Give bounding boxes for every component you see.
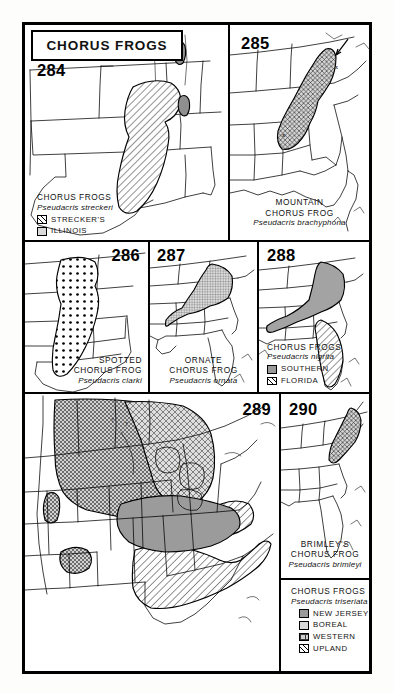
legend-288-label-southern: SOUTHERN (281, 364, 329, 374)
swatch-solid-gray-icon (299, 609, 309, 618)
caption-287-common-name-line1: ORNATE (150, 355, 257, 366)
plate-title-box: CHORUS FROGS (31, 30, 183, 61)
caption-290-common-name-line2: CHORUS FROG (281, 549, 369, 560)
legend-288-label-florida: FLORIDA (281, 376, 318, 386)
swatch-fine-grid-icon (37, 227, 47, 236)
swatch-cross-hatch-icon (299, 621, 309, 630)
legend-284: CHORUS FROGS Pseudacris streckeri STRECK… (37, 192, 113, 236)
caption-285-common-name-line1: MOUNTAIN (230, 197, 369, 208)
panel-number-286: 286 (112, 246, 140, 265)
legend-289-label-western: WESTERN (313, 632, 356, 642)
caption-285: MOUNTAIN CHORUS FROG Pseudacris brachyph… (230, 197, 369, 228)
panel-289: ? ? ? 289 (25, 394, 281, 671)
legend-288-common-name: CHORUS FROGS (267, 342, 341, 353)
map-289: ? ? ? (25, 394, 281, 671)
panel-288: 288 CHORUS FROGS Pseudacris nigrita SOUT… (259, 242, 369, 394)
panel-number-290: 290 (289, 400, 317, 419)
legend-289-label-upland: UPLAND (313, 644, 348, 654)
legend-288: CHORUS FROGS Pseudacris nigrita SOUTHERN… (267, 342, 341, 386)
legend-289-scientific-name: Pseudacris triseriata (291, 597, 369, 607)
panel-285: x x 285 MOUNTAIN CHORUS FROG Pseudacris … (230, 25, 369, 242)
panel-number-287: 287 (157, 246, 185, 265)
legend-284-label-illinois: ILLINOIS (51, 226, 87, 236)
legend-284-scientific-name: Pseudacris streckeri (37, 203, 113, 213)
caption-287: ORNATE CHORUS FROG Pseudacris ornata (150, 355, 257, 386)
legend-284-common-name: CHORUS FROGS (37, 192, 113, 203)
svg-text:?: ? (111, 417, 114, 423)
panel-number-284: 284 (37, 61, 65, 80)
swatch-diagonal-hatch-icon (299, 644, 309, 653)
panel-284: CHORUS FROGS 284 CHORUS FROGS Pseudacris… (25, 25, 230, 242)
legend-289-item-new-jersey: NEW JERSEY (299, 609, 369, 619)
legend-284-item-illinois: ILLINOIS (37, 226, 113, 236)
legend-289-item-western: WESTERN (299, 632, 369, 642)
panel-number-289: 289 (243, 400, 271, 419)
panel-287: 287 ORNATE CHORUS FROG Pseudacris ornata (150, 242, 259, 394)
legend-289-label-new-jersey: NEW JERSEY (313, 609, 369, 619)
caption-286-scientific-name: Pseudacris clarki (74, 376, 142, 386)
panel-286: 286 SPOTTED CHORUS FROG Pseudacris clark… (25, 242, 150, 394)
legend-284-label-streckers: STRECKER'S (51, 215, 105, 225)
svg-text:?: ? (179, 465, 182, 471)
legend-288-scientific-name: Pseudacris nigrita (267, 352, 341, 362)
legend-289-item-boreal: BOREAL (299, 620, 369, 630)
plate-title: CHORUS FROGS (46, 38, 167, 53)
svg-text:?: ? (125, 421, 128, 427)
legend-284-item-streckers: STRECKER'S (37, 215, 113, 225)
caption-287-common-name-line2: CHORUS FROG (150, 365, 257, 376)
legend-289-common-name: CHORUS FROGS (291, 586, 369, 597)
caption-286-common-name-line1: SPOTTED (74, 355, 142, 366)
caption-290-scientific-name: Pseudacris brimleyi (281, 560, 369, 570)
panel-number-288: 288 (267, 246, 295, 265)
legend-289-container: CHORUS FROGS Pseudacris triseriata NEW J… (281, 580, 369, 671)
svg-text:x: x (282, 132, 285, 138)
caption-285-common-name-line2: CHORUS FROG (230, 208, 369, 219)
legend-288-item-florida: FLORIDA (267, 376, 341, 386)
swatch-diagonal-hatch-icon (267, 377, 277, 386)
caption-287-scientific-name: Pseudacris ornata (150, 376, 257, 386)
swatch-dense-cross-hatch-icon (299, 633, 309, 642)
range-map-plate: CHORUS FROGS 284 CHORUS FROGS Pseudacris… (22, 22, 372, 674)
caption-290-common-name-line1: BRIMLEY'S (281, 539, 369, 550)
panel-290: 290 BRIMLEY'S CHORUS FROG Pseudacris bri… (281, 394, 369, 580)
legend-289-item-upland: UPLAND (299, 644, 369, 654)
caption-286-common-name-line2: CHORUS FROG (74, 365, 142, 376)
caption-286: SPOTTED CHORUS FROG Pseudacris clarki (74, 355, 142, 386)
legend-288-item-southern: SOUTHERN (267, 364, 341, 374)
caption-285-scientific-name: Pseudacris brachyphona (230, 218, 369, 228)
svg-text:x: x (335, 64, 338, 70)
legend-289: CHORUS FROGS Pseudacris triseriata NEW J… (291, 586, 369, 654)
swatch-diagonal-hatch-icon (37, 215, 47, 224)
panel-number-285: 285 (241, 34, 269, 53)
swatch-solid-gray-icon (267, 365, 277, 374)
caption-290: BRIMLEY'S CHORUS FROG Pseudacris brimley… (281, 539, 369, 570)
legend-289-label-boreal: BOREAL (313, 620, 348, 630)
